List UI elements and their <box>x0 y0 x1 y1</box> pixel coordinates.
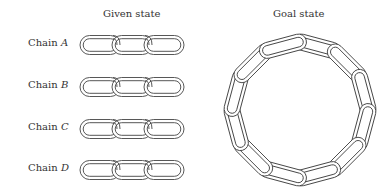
chains-diagram <box>0 0 389 192</box>
chain-link <box>144 161 184 180</box>
chain-link <box>144 78 184 97</box>
chain-link <box>144 120 184 139</box>
chain-c <box>80 120 184 139</box>
chain-b <box>80 78 184 97</box>
goal-ring <box>222 32 377 187</box>
chain-a <box>80 36 184 55</box>
ring-link <box>258 32 309 60</box>
chain-d <box>80 161 184 180</box>
chain-link <box>144 36 184 55</box>
